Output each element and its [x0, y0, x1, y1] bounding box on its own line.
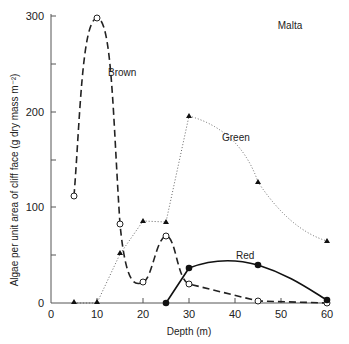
y-tick-label-0: 0	[38, 297, 44, 309]
green-series-label: Green	[222, 132, 250, 143]
x-tick-label-30: 30	[183, 308, 195, 320]
green-series-line	[74, 116, 327, 303]
x-axis-label: Depth (m)	[167, 326, 211, 337]
chart-title: Malta	[278, 20, 303, 31]
x-tick-label-50: 50	[275, 308, 287, 320]
brown-series-line	[74, 18, 327, 303]
y-tick-label-200: 200	[26, 106, 44, 118]
red-series-label: Red	[236, 250, 254, 261]
chart: 300 200 100 0 0 10 20 30 40 50 60 Depth …	[0, 0, 349, 344]
x-tick-label-0: 0	[48, 308, 54, 320]
x-tick-label-60: 60	[321, 308, 333, 320]
x-tick-label-40: 40	[229, 308, 241, 320]
y-axis-label: Algae per unit area of cliff face (g dry…	[9, 74, 20, 287]
green-series-markers	[71, 113, 330, 304]
y-tick-label-100: 100	[26, 201, 44, 213]
y-ticks	[51, 16, 56, 255]
x-tick-label-10: 10	[91, 308, 103, 320]
x-tick-label-20: 20	[137, 308, 149, 320]
y-tick-label-300: 300	[26, 10, 44, 22]
brown-series-label: Brown	[108, 67, 136, 78]
